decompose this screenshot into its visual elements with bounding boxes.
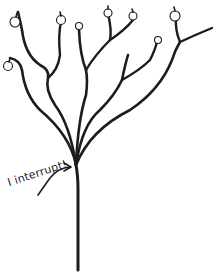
apple-icon [4,58,13,71]
tree-diagram [0,0,219,276]
apple-icon [76,23,83,30]
apple-icon [170,7,180,21]
branch-right-up [176,18,180,42]
trunk [76,165,78,270]
apple-icon [104,6,112,17]
branch-far-left [10,58,76,165]
branch-left-twig [48,22,61,78]
branch-center-twig [86,14,111,70]
apple-icon [57,12,66,25]
apple-icon [129,9,137,20]
branch-right-out [180,28,212,42]
branch-center-twig-2 [110,20,133,40]
apple-icon [155,37,162,44]
